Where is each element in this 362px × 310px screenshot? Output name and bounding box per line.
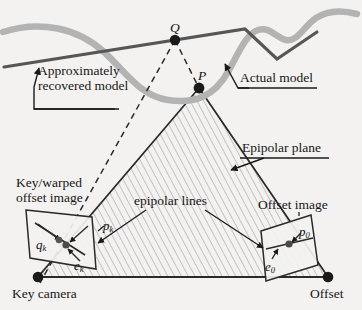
- key-camera-dot: [33, 272, 44, 283]
- label-key-warped-line1: Key/warped: [16, 176, 83, 191]
- label-key-camera: Key camera: [12, 287, 77, 302]
- epipolar-geometry-figure: Approximately recovered model Actual mod…: [0, 0, 362, 310]
- key-image-point-pk: [62, 241, 69, 248]
- label-actual-model: Actual model: [240, 71, 313, 86]
- label-point-Q: Q: [170, 20, 180, 36]
- label-offset-camera: Offset: [310, 287, 344, 302]
- label-point-P: P: [198, 68, 206, 84]
- point-P-dot: [194, 83, 205, 94]
- label-e-k: ek: [74, 258, 84, 274]
- offset-camera-dot: [323, 272, 334, 283]
- key-image-point-qk: [56, 237, 63, 244]
- label-approx-line2: recovered model: [38, 79, 128, 94]
- dashed-segment-Q-to-P: [175, 40, 199, 88]
- label-q-k-sub: k: [43, 243, 47, 253]
- label-approx-line1: Approximately: [38, 64, 128, 79]
- label-p-k: pk: [103, 218, 113, 234]
- label-offset-image: Offset image: [258, 198, 328, 213]
- label-q-k: qk: [36, 237, 46, 253]
- label-approximately-recovered-model: Approximately recovered model: [38, 64, 128, 93]
- label-key-warped-offset-image: Key/warped offset image: [16, 176, 83, 205]
- label-e-0: e0: [265, 259, 275, 275]
- label-p-0: p0: [299, 224, 310, 240]
- label-e-k-sub: k: [80, 264, 84, 274]
- point-Q-dot: [170, 35, 180, 45]
- label-epipolar-lines: epipolar lines: [134, 194, 207, 209]
- label-p-k-sub: k: [110, 224, 114, 234]
- label-key-warped-line2: offset image: [16, 191, 83, 206]
- label-e-0-sub: 0: [271, 265, 275, 275]
- label-p-0-sub: 0: [306, 230, 310, 240]
- label-epipolar-plane: Epipolar plane: [242, 141, 321, 156]
- offset-image-point-p0: [285, 240, 292, 247]
